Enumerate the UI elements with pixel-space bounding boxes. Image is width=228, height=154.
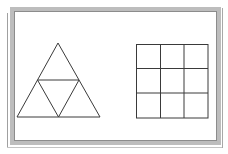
picture-frame: [7, 8, 223, 148]
square-grid-3x3: [137, 45, 209, 119]
triangle-inner-left-edge: [38, 80, 59, 117]
frame-band: [12, 9, 219, 143]
diagram-canvas: [0, 0, 228, 154]
diagram-svg: [0, 0, 228, 154]
triangle-inner-right-edge: [59, 80, 80, 117]
subdivided-triangle: [17, 43, 100, 117]
frame-inner-line: [15, 12, 217, 141]
grid-outer-square: [137, 45, 209, 119]
